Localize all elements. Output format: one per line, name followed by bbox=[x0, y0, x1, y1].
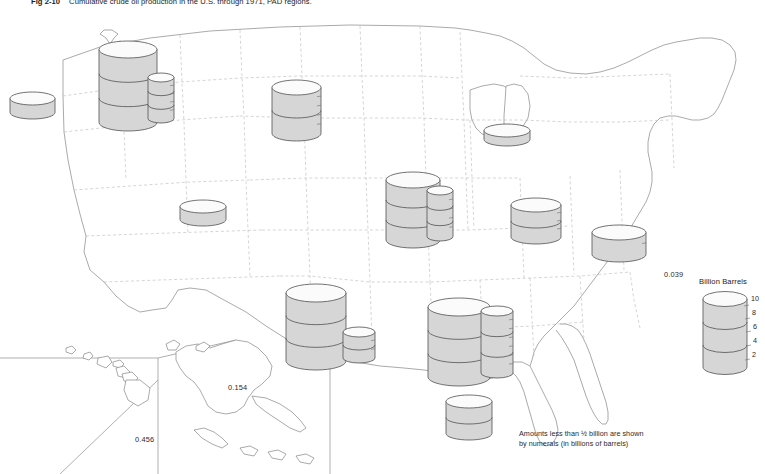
cyl-pacific-offshore bbox=[2, 84, 63, 127]
cyl-california-coast bbox=[335, 319, 383, 371]
footnote-line-1: Amounts less than ½ billion are shown bbox=[519, 429, 644, 439]
coastline-florida bbox=[556, 324, 608, 424]
cyl-gulf-coast bbox=[473, 298, 521, 386]
cyl-midcontinent-e bbox=[419, 178, 461, 249]
footnote: Amounts less than ½ billion are shown by… bbox=[519, 429, 644, 448]
figure-root: Fig 2-10Cumulative crude oil production … bbox=[0, 0, 765, 474]
hawaii-islands bbox=[66, 346, 150, 406]
numeral-alaska: 0.456 bbox=[135, 435, 154, 444]
legend-tick-8: 8 bbox=[752, 309, 756, 317]
cyl-rocky-north-2 bbox=[140, 65, 182, 131]
cyl-gulf-offshore bbox=[438, 387, 500, 448]
numeral-south-atlantic: 0.039 bbox=[664, 270, 683, 279]
legend-tick-4: 4 bbox=[753, 337, 757, 345]
legend-title: Billion Barrels bbox=[699, 277, 747, 286]
scale-cylinder: 10 8 6 4 2 bbox=[700, 289, 758, 385]
cyl-northern-plains bbox=[264, 72, 329, 149]
cyl-mid-plateau bbox=[172, 192, 234, 234]
legend-tick-2: 2 bbox=[752, 351, 756, 359]
footnote-line-2: by numerals (in billions of barrels) bbox=[519, 439, 644, 449]
cyl-kentucky bbox=[503, 190, 569, 252]
legend-tick-6: 6 bbox=[753, 323, 757, 331]
cyl-appalachian bbox=[584, 217, 654, 270]
legend-tick-10: 10 bbox=[751, 295, 759, 303]
legend: Billion Barrels 10 8 6 4 2 bbox=[694, 277, 765, 382]
cyl-illinois-disc bbox=[476, 116, 538, 154]
numeral-pacific-inset: 0.154 bbox=[228, 383, 247, 392]
